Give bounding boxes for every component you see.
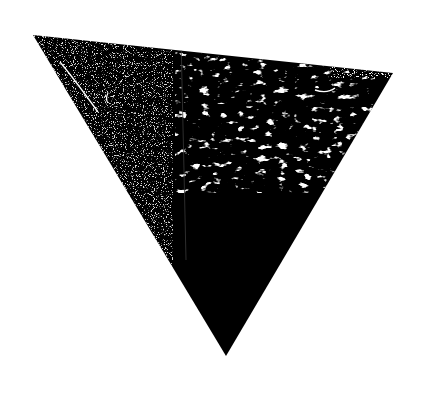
inverted-triangle-artwork [0,0,430,394]
